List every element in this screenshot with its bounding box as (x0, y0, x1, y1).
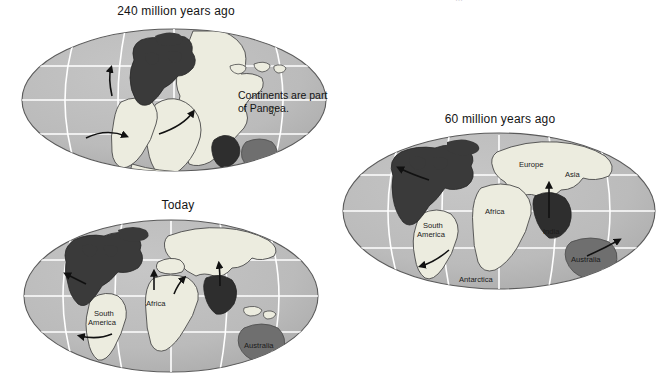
label-south-america-2: America (417, 230, 446, 239)
label-india: India (543, 227, 560, 236)
label-south-america: South (94, 309, 114, 318)
map-graphic-240mya: Continents are part of Pangea. (8, 22, 344, 182)
map-panel-today: Today (18, 198, 338, 388)
label-africa: Africa (485, 207, 505, 216)
map-title-today: Today (18, 198, 338, 212)
label-australia: Australia (571, 255, 601, 264)
map-title-240mya: 240 million years ago (8, 4, 344, 18)
map-graphic-60mya: Europe Asia Africa India South America A… (337, 130, 663, 310)
cut-off-header-text: … (455, 0, 605, 1)
map-panel-240mya: 240 million years ago (8, 4, 344, 184)
label-antarctica: Antarctica (459, 275, 494, 284)
map-title-60mya: 60 million years ago (337, 112, 663, 126)
map-graphic-today: South America Africa Australia (18, 216, 338, 386)
callout-line-1: Continents are part (238, 89, 327, 101)
label-asia: Asia (565, 170, 581, 179)
label-south-america-2: America (88, 318, 117, 327)
map-panel-60mya: 60 million years ago (337, 112, 663, 322)
label-australia: Australia (244, 341, 274, 350)
figure-canvas: … 240 million years ago (0, 0, 669, 388)
label-africa: Africa (146, 299, 166, 308)
callout-line-2: of Pangea. (238, 102, 289, 114)
label-europe: Europe (519, 160, 544, 169)
label-south-america: South (423, 221, 443, 230)
